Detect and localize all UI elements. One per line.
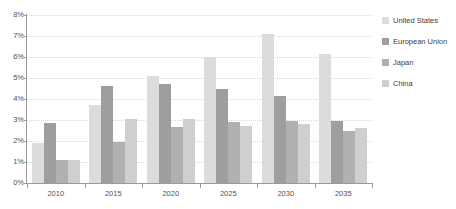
bar-japan-2015[interactable] xyxy=(113,142,125,183)
x-tick-mark xyxy=(372,184,373,188)
y-tick-mark xyxy=(24,36,27,37)
x-tick-label-2035: 2035 xyxy=(323,190,363,198)
bar-group-2025 xyxy=(204,15,252,183)
bar-european-union-2010[interactable] xyxy=(44,123,56,183)
y-tick-mark xyxy=(24,141,27,142)
x-tick-mark xyxy=(142,184,143,188)
x-tick-mark xyxy=(315,184,316,188)
x-tick-label-2010: 2010 xyxy=(36,190,76,198)
bar-china-2015[interactable] xyxy=(125,119,137,183)
bar-chart: 0%1%2%3%4%5%6%7%8% 201020152020202520302… xyxy=(0,0,456,209)
bar-united-states-2010[interactable] xyxy=(32,143,44,183)
bar-group-2010 xyxy=(32,15,80,183)
legend-label: United States xyxy=(393,17,438,25)
x-tick-mark xyxy=(27,184,28,188)
legend-item-united-states[interactable]: United States xyxy=(382,10,456,31)
bar-european-union-2015[interactable] xyxy=(101,86,113,183)
bar-china-2030[interactable] xyxy=(298,124,310,183)
bar-european-union-2025[interactable] xyxy=(216,89,228,184)
bar-group-2015 xyxy=(89,15,137,183)
bar-japan-2010[interactable] xyxy=(56,160,68,183)
x-tick-label-2020: 2020 xyxy=(151,190,191,198)
y-tick-label: 1% xyxy=(2,158,24,166)
legend-item-european-union[interactable]: European Union xyxy=(382,31,456,52)
x-tick-label-2030: 2030 xyxy=(266,190,306,198)
plot-area xyxy=(27,15,372,183)
y-tick-label: 0% xyxy=(2,179,24,187)
legend-label: Japan xyxy=(393,59,413,67)
y-tick-mark xyxy=(24,78,27,79)
x-tick-mark xyxy=(85,184,86,188)
y-axis-tick-labels: 0%1%2%3%4%5%6%7%8% xyxy=(0,15,24,183)
x-tick-label-2015: 2015 xyxy=(93,190,133,198)
bar-japan-2025[interactable] xyxy=(228,122,240,183)
y-tick-mark xyxy=(24,162,27,163)
bar-european-union-2035[interactable] xyxy=(331,121,343,183)
bar-group-2020 xyxy=(147,15,195,183)
bar-japan-2030[interactable] xyxy=(286,121,298,183)
bar-united-states-2015[interactable] xyxy=(89,105,101,183)
bar-united-states-2035[interactable] xyxy=(319,54,331,183)
bar-european-union-2020[interactable] xyxy=(159,84,171,183)
chart-legend: United StatesEuropean UnionJapanChina xyxy=(382,10,456,94)
legend-swatch-european-union xyxy=(382,38,389,45)
y-tick-label: 6% xyxy=(2,53,24,61)
bar-china-2010[interactable] xyxy=(68,160,80,183)
y-tick-label: 4% xyxy=(2,95,24,103)
x-tick-mark xyxy=(257,184,258,188)
legend-label: China xyxy=(393,80,413,88)
x-tick-label-2025: 2025 xyxy=(208,190,248,198)
bar-china-2025[interactable] xyxy=(240,126,252,183)
legend-label: European Union xyxy=(393,38,447,46)
bar-group-2035 xyxy=(319,15,367,183)
y-tick-mark xyxy=(24,15,27,16)
bar-united-states-2025[interactable] xyxy=(204,57,216,183)
y-tick-label: 3% xyxy=(2,116,24,124)
y-tick-mark xyxy=(24,120,27,121)
bar-european-union-2030[interactable] xyxy=(274,96,286,183)
bar-china-2035[interactable] xyxy=(355,128,367,183)
x-tick-mark xyxy=(200,184,201,188)
y-tick-mark xyxy=(24,183,27,184)
bar-group-2030 xyxy=(262,15,310,183)
y-tick-label: 5% xyxy=(2,74,24,82)
bar-united-states-2030[interactable] xyxy=(262,34,274,183)
bar-japan-2020[interactable] xyxy=(171,127,183,183)
legend-swatch-japan xyxy=(382,59,389,66)
bar-united-states-2020[interactable] xyxy=(147,76,159,183)
y-tick-label: 2% xyxy=(2,137,24,145)
bar-japan-2035[interactable] xyxy=(343,131,355,184)
y-tick-label: 8% xyxy=(2,11,24,19)
legend-item-china[interactable]: China xyxy=(382,73,456,94)
bar-china-2020[interactable] xyxy=(183,119,195,183)
y-tick-mark xyxy=(24,99,27,100)
y-tick-label: 7% xyxy=(2,32,24,40)
legend-swatch-united-states xyxy=(382,17,389,24)
y-tick-mark xyxy=(24,57,27,58)
legend-item-japan[interactable]: Japan xyxy=(382,52,456,73)
legend-swatch-china xyxy=(382,80,389,87)
